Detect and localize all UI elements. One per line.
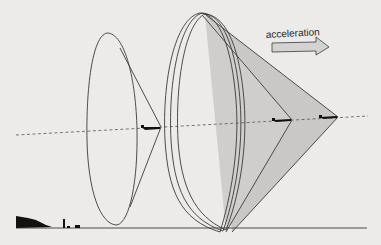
ground-tower — [63, 219, 65, 228]
acceleration-arrow-icon — [272, 37, 329, 55]
aircraft-1 — [141, 125, 160, 130]
acceleration-annotation: acceleration — [266, 26, 329, 55]
ground-silhouette — [16, 216, 52, 228]
small-ellipse — [87, 33, 137, 225]
ground-building-2 — [67, 226, 70, 228]
ground-building — [75, 225, 80, 228]
acceleration-label: acceleration — [266, 26, 320, 40]
sonic-boom-cone-diagram: acceleration — [0, 0, 381, 245]
